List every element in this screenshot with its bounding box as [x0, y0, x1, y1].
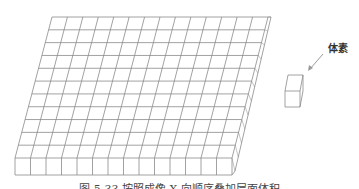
single-voxel-cube: [285, 75, 303, 107]
slab-side-row-line: [248, 94, 251, 101]
slab-side-row-line: [232, 158, 235, 171]
slab-column-line: [217, 17, 253, 158]
slab-side-row-line: [239, 132, 242, 143]
slab-column-line: [186, 17, 222, 158]
slab-column-line: [201, 17, 237, 158]
slab-column-line: [170, 17, 206, 158]
slab-column-line: [232, 17, 268, 158]
voxel-slab-figure: [0, 0, 359, 189]
slab-column-line: [77, 17, 114, 158]
voxel-edge: [300, 91, 303, 107]
slab-column-line: [31, 17, 68, 158]
slab-column-line: [155, 17, 191, 158]
slab-side-row-line: [265, 30, 268, 31]
slab-side-row-line: [245, 107, 248, 115]
voxel-edge: [300, 75, 303, 91]
slab-side-row-line: [235, 145, 238, 157]
slab-column-line: [93, 17, 130, 158]
slab-side-row-line: [261, 43, 264, 45]
arrow-shaft: [310, 54, 323, 69]
slab-side-row-line: [252, 81, 255, 87]
slab-column-line: [139, 17, 175, 158]
slab-column-line: [124, 17, 161, 158]
figure-caption: 图 5-33 按照成像 X 向顺序叠加层面体积: [0, 180, 359, 189]
slab-column-line: [46, 17, 83, 158]
slab-side-row-line: [258, 55, 261, 59]
voxel-slab: [15, 17, 271, 175]
slab-side-row-line: [242, 120, 245, 129]
slab-side-edge: [232, 171, 235, 175]
voxel-pointer-arrow: [308, 54, 323, 71]
slab-side-row-line: [255, 68, 258, 73]
slab-column-line: [62, 17, 99, 158]
slab-column-line: [108, 17, 145, 158]
slab-column-line: [15, 17, 52, 158]
voxel-edge: [285, 75, 288, 91]
voxel-label: 体素: [328, 40, 348, 55]
